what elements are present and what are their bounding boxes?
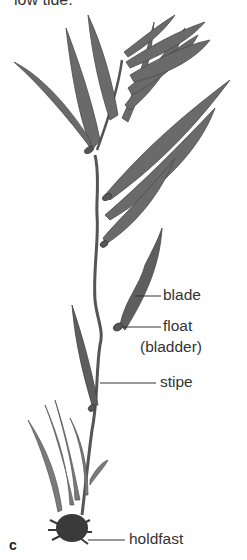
label-float: float [163,317,192,335]
label-holdfast: holdfast [129,530,183,548]
label-stipe: stipe [160,373,193,391]
kelp-illustration [0,0,247,560]
label-blade: blade [163,286,201,304]
panel-letter: c [9,537,17,553]
label-bladder: (bladder) [140,338,202,356]
